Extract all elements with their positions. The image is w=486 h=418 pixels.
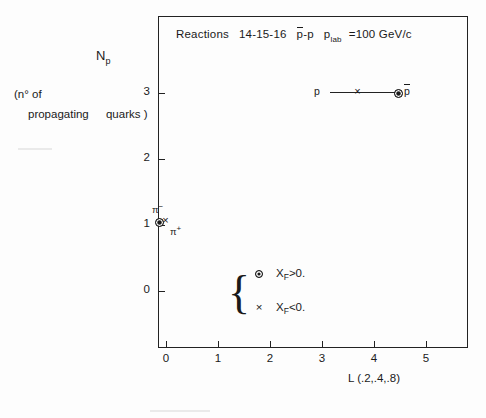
x-tick-1 xyxy=(218,341,219,348)
x-tick-4 xyxy=(374,341,375,348)
title-pbar-symbol: p xyxy=(297,28,304,40)
y-tick-label-2: 2 xyxy=(128,151,150,163)
y-tick-2 xyxy=(158,159,165,160)
title-reaction-numbers: 14-15-16 xyxy=(239,28,287,40)
legend-dot-icon xyxy=(248,267,270,279)
title-momentum-subscript: lab xyxy=(330,35,341,44)
data-marker-cross-pi-plus: × xyxy=(161,216,170,225)
legend-cross-icon: × xyxy=(248,301,270,313)
scan-artifact xyxy=(18,148,52,150)
y-axis-title: Np xyxy=(96,48,110,63)
pi-minus-superscript: − xyxy=(159,202,164,211)
x-tick-3 xyxy=(322,341,323,348)
x-tick-0 xyxy=(166,341,167,348)
y-axis-note-line-2: propagating xyxy=(14,104,89,124)
x-tick-2 xyxy=(270,341,271,348)
y-axis-title-subscript: p xyxy=(105,56,110,66)
y-axis-title-symbol: N xyxy=(96,48,105,63)
data-label-antiproton: p xyxy=(404,85,410,97)
x-tick-5 xyxy=(426,341,427,348)
data-label-pi-plus: π+ xyxy=(170,226,181,237)
pi-plus-superscript: + xyxy=(177,224,182,233)
overline-bar xyxy=(404,84,410,85)
legend-label-xf-positive: XF>0. xyxy=(270,267,305,279)
title-target: -p xyxy=(303,28,314,40)
legend-brace: { xyxy=(228,264,242,326)
data-marker-dot-antiproton xyxy=(394,89,403,98)
legend-label-xf-negative: XF<0. xyxy=(270,301,305,313)
antiproton-overline-group: p xyxy=(404,85,410,97)
legend: { XF>0. ×XF<0. xyxy=(228,264,358,326)
data-connector-p-pbar xyxy=(330,92,398,93)
x-tick-label-5: 5 xyxy=(415,352,437,364)
figure-canvas: Reactions14-15-16p-pplab=100 GeV/c Np (n… xyxy=(0,0,486,418)
x-tick-label-0: 0 xyxy=(155,352,177,364)
overline-bar xyxy=(297,27,304,28)
x-axis-title: L (.2,.4,.8) xyxy=(348,372,400,384)
y-tick-label-3: 3 xyxy=(128,85,150,97)
legend-row-xf-negative: ×XF<0. xyxy=(248,300,305,322)
y-tick-0 xyxy=(158,291,165,292)
data-label-proton: p xyxy=(314,85,320,97)
y-tick-3 xyxy=(158,93,165,94)
x-tick-label-2: 2 xyxy=(259,352,281,364)
x-tick-label-4: 4 xyxy=(363,352,385,364)
legend-row-xf-positive: XF>0. xyxy=(248,266,305,288)
title-momentum-value: =100 GeV/c xyxy=(349,28,412,40)
x-tick-label-3: 3 xyxy=(311,352,333,364)
y-tick-label-1: 1 xyxy=(128,217,150,229)
x-tick-label-1: 1 xyxy=(207,352,229,364)
y-axis-note-line-3: quarks ) xyxy=(92,104,148,124)
data-marker-cross-proton: × xyxy=(353,87,362,96)
title-word-reactions: Reactions xyxy=(176,28,229,40)
chart-title: Reactions14-15-16p-pplab=100 GeV/c xyxy=(176,28,412,40)
scan-artifact xyxy=(150,410,210,412)
y-tick-label-0: 0 xyxy=(128,283,150,295)
